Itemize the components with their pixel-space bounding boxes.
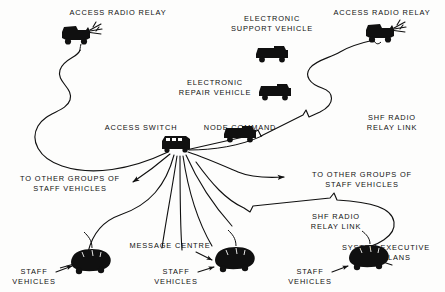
network-diagram: ACCESS RADIO RELAY ACCESS RADIO RELAY EL… [0, 0, 445, 292]
label-staff-vehicles-right: STAFF VEHICLES [288, 267, 331, 286]
label-system-executive-and-plans: SYSTEM EXECUTIVE AND PLANS [342, 243, 430, 262]
radio-relay-vehicle-icon-right [366, 20, 406, 44]
link-access-switch-to-left-radio-relay [35, 50, 168, 171]
label-access-switch: ACCESS SWITCH [105, 123, 178, 133]
label-to-other-groups-right: TO OTHER GROUPS OF STAFF VEHICLES [312, 170, 412, 189]
label-to-other-groups-left: TO OTHER GROUPS OF STAFF VEHICLES [20, 174, 120, 193]
staff-car-icon-centre [215, 230, 255, 272]
label-access-radio-relay-left: ACCESS RADIO RELAY [70, 8, 167, 18]
label-access-radio-relay-right: ACCESS RADIO RELAY [334, 8, 431, 18]
truck-icon-electronic-support-vehicle [256, 46, 288, 62]
switch-vehicle-icon-access-switch [162, 136, 190, 153]
label-staff-vehicles-left: STAFF VEHICLES [12, 267, 55, 286]
truck-icon-electronic-repair-vehicle [259, 84, 291, 100]
label-shf-radio-relay-link-lower: SHF RADIO RELAY LINK [311, 212, 362, 231]
access-switch-fanout [88, 136, 284, 252]
label-staff-vehicles-centre: STAFF VEHICLES [154, 267, 197, 286]
label-electronic-support-vehicle: ELECTRONIC SUPPORT VEHICLE [231, 14, 313, 33]
label-message-centre: MESSAGE CENTRE [130, 241, 211, 251]
radio-relay-vehicle-icon-left [62, 22, 102, 51]
label-node-command: NODE COMMAND [204, 123, 277, 133]
label-electronic-repair-vehicle: ELECTRONIC REPAIR VEHICLE [179, 78, 252, 97]
label-shf-radio-relay-link-upper: SHF RADIO RELAY LINK [367, 113, 418, 132]
